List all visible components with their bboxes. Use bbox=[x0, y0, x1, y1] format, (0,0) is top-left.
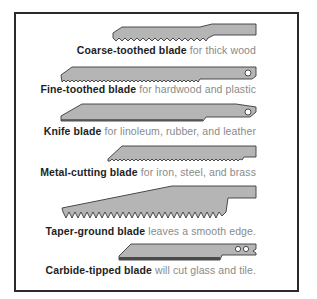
blade-description: for linoleum, rubber, and leather bbox=[101, 125, 256, 137]
caption-taper-ground: Taper-ground blade leaves a smooth edge. bbox=[46, 225, 256, 237]
mount-hole-icon bbox=[243, 246, 248, 251]
mount-hole-icon bbox=[245, 70, 251, 76]
blade-name: Coarse-toothed blade bbox=[77, 44, 187, 56]
blade-name: Fine-toothed blade bbox=[40, 83, 136, 95]
blade-description: for iron, steel, and brass bbox=[138, 166, 256, 178]
caption-fine-toothed: Fine-toothed blade for hardwood and plas… bbox=[40, 83, 256, 95]
blade-description: for thick wood bbox=[187, 44, 256, 56]
mount-hole-icon bbox=[235, 246, 240, 251]
blade-name: Carbide-tipped blade bbox=[46, 264, 152, 276]
blade-name: Metal-cutting blade bbox=[40, 166, 138, 178]
metal-cutting-blade-icon bbox=[108, 146, 256, 161]
blade-name: Taper-ground blade bbox=[46, 225, 146, 237]
taper-ground-blade-icon bbox=[62, 186, 256, 218]
blade-description: for hardwood and plastic bbox=[136, 83, 256, 95]
blade-name: Knife blade bbox=[44, 125, 102, 137]
fine-toothed-blade-icon bbox=[61, 67, 256, 82]
mount-hole-icon bbox=[245, 109, 251, 115]
caption-carbide-tipped: Carbide-tipped blade will cut glass and … bbox=[46, 264, 256, 276]
coarse-toothed-blade-icon bbox=[113, 24, 256, 41]
knife-blade-icon bbox=[61, 104, 256, 121]
blade-description: leaves a smooth edge. bbox=[145, 225, 256, 237]
blade-description: will cut glass and tile. bbox=[152, 264, 256, 276]
carbide-tipped-blade-icon bbox=[119, 244, 256, 260]
caption-metal-cutting: Metal-cutting blade for iron, steel, and… bbox=[40, 166, 256, 178]
caption-knife: Knife blade for linoleum, rubber, and le… bbox=[44, 125, 256, 137]
caption-coarse-toothed: Coarse-toothed blade for thick wood bbox=[77, 44, 256, 56]
